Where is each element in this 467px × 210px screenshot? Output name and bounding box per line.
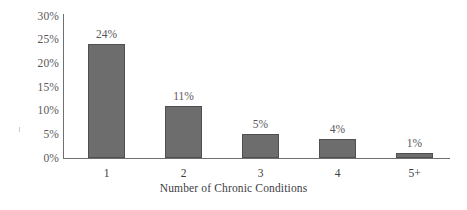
x-axis-title: Number of Chronic Conditions (0, 182, 467, 194)
bar-value-label: 1% (384, 138, 445, 150)
bar (319, 139, 356, 158)
x-tick-label: 3 (228, 168, 293, 180)
bar-value-label: 4% (307, 124, 368, 136)
x-tick-label: 2 (151, 168, 216, 180)
bar-value-label: 5% (230, 119, 291, 131)
bar (165, 106, 202, 158)
bar-value-label: 24% (76, 29, 137, 41)
bar (242, 134, 279, 158)
bar-value-label: 11% (153, 91, 214, 103)
x-tick-label: 5+ (382, 168, 447, 180)
bar-chart: 30%25%20%15%10%5%0% 24%111%25%34%41%5+ N… (0, 0, 467, 210)
bar (88, 44, 125, 158)
bar (396, 153, 433, 158)
x-tick-label: 4 (305, 168, 370, 180)
x-tick-label: 1 (74, 168, 139, 180)
bars-layer: 24%111%25%34%41%5+ (0, 0, 467, 210)
